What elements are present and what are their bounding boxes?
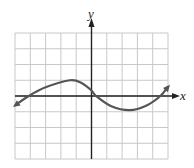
x-axis-label: x (180, 88, 186, 104)
function-graph (0, 0, 194, 168)
y-axis-label: y (88, 6, 94, 22)
axes (15, 18, 180, 159)
